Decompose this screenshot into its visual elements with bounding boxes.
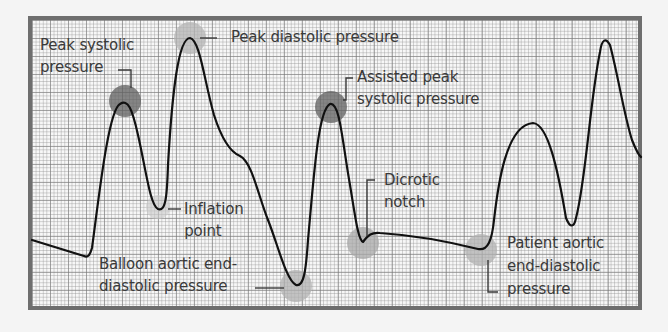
assisted-peak-systolic-label-line2: systolic pressure (357, 88, 479, 110)
peak-diastolic-label: Peak diastolic pressure (231, 26, 399, 48)
dicrotic-notch-label-line1: Dicrotic (384, 169, 440, 191)
inflation-point-label: Inflation point (184, 198, 244, 242)
assisted-peak-systolic-leader (343, 78, 353, 100)
patient-aortic-label-line1: Patient aortic (507, 232, 604, 255)
inflation-point-label-line2: point (184, 220, 244, 242)
dicrotic-notch-label-line2: notch (384, 191, 440, 213)
balloon-aortic-label-line2: diastolic pressure (99, 275, 237, 297)
balloon-aortic-label-line1: Balloon aortic end- (99, 253, 237, 275)
patient-aortic-end-diastolic-label: Patient aortic end-diastolic pressure (507, 232, 604, 301)
patient-aortic-label-line2: end-diastolic (507, 255, 604, 278)
assisted-peak-systolic-marker (315, 91, 347, 123)
peak-systolic-label: Peak systolic pressure (40, 34, 134, 78)
inflation-point-label-line1: Inflation (184, 198, 244, 220)
dicrotic-notch-label: Dicrotic notch (384, 169, 440, 213)
assisted-peak-systolic-label-line1: Assisted peak (357, 66, 479, 88)
patient-aortic-label-line3: pressure (507, 278, 604, 301)
dicrotic-notch-leader (367, 180, 375, 236)
assisted-peak-systolic-label: Assisted peak systolic pressure (357, 66, 479, 110)
peak-systolic-label-line1: Peak systolic (40, 34, 134, 56)
patient-aortic-end-diastolic-leader (488, 260, 498, 292)
peak-diastolic-label-line1: Peak diastolic pressure (231, 26, 399, 48)
balloon-aortic-end-diastolic-label: Balloon aortic end- diastolic pressure (99, 253, 237, 297)
peak-systolic-label-line2: pressure (40, 56, 134, 78)
